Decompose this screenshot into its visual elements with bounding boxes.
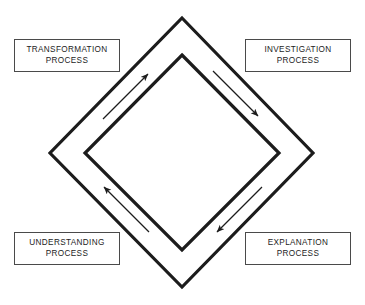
inner-diamond: [85, 55, 279, 250]
label-explanation-line2: PROCESS: [277, 249, 320, 260]
label-investigation-line1: INVESTIGATION: [264, 45, 331, 56]
process-cycle-diagram: TRANSFORMATION PROCESS INVESTIGATION PRO…: [0, 0, 365, 305]
label-understanding-line2: PROCESS: [46, 249, 89, 260]
label-understanding-line1: UNDERSTANDING: [29, 238, 104, 249]
label-box-investigation: INVESTIGATION PROCESS: [245, 39, 351, 72]
label-transformation-line2: PROCESS: [46, 56, 89, 67]
label-box-explanation: EXPLANATION PROCESS: [245, 232, 351, 265]
label-box-understanding: UNDERSTANDING PROCESS: [14, 232, 120, 265]
label-investigation-line2: PROCESS: [277, 56, 320, 67]
label-box-transformation: TRANSFORMATION PROCESS: [14, 39, 120, 72]
label-explanation-line1: EXPLANATION: [268, 238, 329, 249]
label-transformation-line1: TRANSFORMATION: [26, 45, 107, 56]
